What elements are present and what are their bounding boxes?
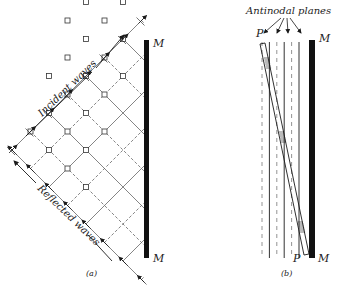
wave-planes xyxy=(262,42,299,258)
mirror-a xyxy=(144,40,149,258)
antinodal-planes-title: Antinodal planes xyxy=(245,5,331,16)
caption-b: (b) xyxy=(281,269,292,278)
reflected-direction-arrow xyxy=(14,161,36,183)
mirror-b xyxy=(309,40,315,258)
standing-waves-figure: M M Incident waves Reflected waves (a) A… xyxy=(0,0,339,295)
mirror-a-top-label: M xyxy=(152,37,165,50)
wavefront-arrows xyxy=(7,16,147,285)
mirror-a-bottom-label: M xyxy=(152,252,165,265)
mirror-b-bottom-label: M xyxy=(317,252,330,265)
wave-lattice xyxy=(12,18,144,282)
mirror-b-top-label: M xyxy=(318,32,331,45)
incident-direction-line xyxy=(26,72,92,136)
reflected-waves-label: Reflected waves xyxy=(35,182,103,248)
panel-a: M M Incident waves Reflected waves (a) xyxy=(7,0,165,285)
plate-top-label: P xyxy=(255,27,264,40)
caption-a: (a) xyxy=(86,269,97,278)
plate-bottom-label: P xyxy=(292,252,301,265)
node-squares xyxy=(28,0,126,190)
antinodal-pointer-arrows xyxy=(264,18,301,33)
panel-b: Antinodal planes P M P M (b) xyxy=(245,5,331,278)
